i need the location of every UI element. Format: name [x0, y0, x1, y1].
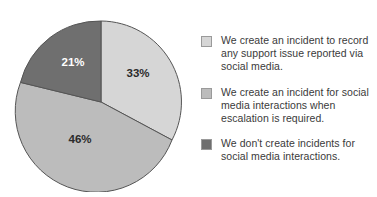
- chart-legend: We create an incident to record any supp…: [201, 34, 373, 176]
- legend-swatch-icon-2: [201, 88, 212, 99]
- legend-item-1[interactable]: We create an incident to record any supp…: [201, 34, 373, 74]
- pie-chart-plot-area: 33% 46% 21%: [14, 14, 190, 192]
- legend-swatch-icon-3: [201, 139, 212, 150]
- legend-item-2[interactable]: We create an incident for social media i…: [201, 86, 373, 126]
- pie-slice-label-1: 33%: [126, 67, 149, 79]
- pie-slice-label-2: 46%: [68, 133, 91, 145]
- legend-swatch-icon-1: [201, 36, 212, 47]
- pie-chart-figure: 33% 46% 21% We create an incident to rec…: [0, 0, 377, 197]
- legend-label-2: We create an incident for social media i…: [221, 86, 373, 126]
- pie-chart-svg: 33% 46% 21%: [14, 14, 190, 192]
- pie-slice-label-3: 21%: [61, 56, 84, 68]
- legend-label-3: We don't create incidents for social med…: [221, 137, 373, 163]
- legend-label-1: We create an incident to record any supp…: [221, 34, 373, 74]
- legend-item-3[interactable]: We don't create incidents for social med…: [201, 137, 373, 163]
